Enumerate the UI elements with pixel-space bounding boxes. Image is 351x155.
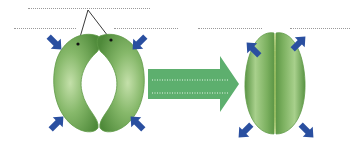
arrow-outward-bottom-left-icon xyxy=(234,120,257,143)
arrow-outward-bottom-right-icon xyxy=(296,120,319,143)
transition-arrow-icon xyxy=(148,56,239,112)
diagram-graphics xyxy=(0,0,351,155)
right-closed-guard-cell xyxy=(275,33,305,134)
stomata-diagram xyxy=(0,0,351,155)
